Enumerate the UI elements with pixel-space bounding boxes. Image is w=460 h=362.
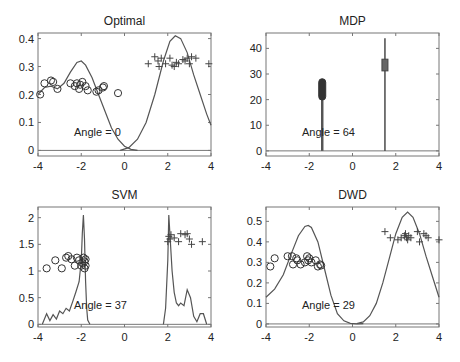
class-1-point <box>52 257 59 264</box>
y-tick-label: 0.5 <box>247 215 262 227</box>
class-2-point <box>199 238 206 245</box>
subplot-svm: SVM-4-202400.511.52Angle = 37 <box>19 188 214 343</box>
angle-annotation: Angle = 37 <box>74 299 127 311</box>
class-2-point <box>175 238 182 245</box>
class-1-point <box>84 87 91 94</box>
subplot-title: MDP <box>339 14 366 28</box>
density-curve <box>120 36 211 151</box>
y-tick-label: 40 <box>250 42 262 54</box>
class-1-point <box>114 90 121 97</box>
x-tick-label: -4 <box>261 160 271 172</box>
y-tick-label: 0 <box>256 145 262 157</box>
class-1-points <box>319 79 326 100</box>
x-tick-label: -2 <box>304 160 314 172</box>
class-2-point <box>192 55 199 62</box>
x-tick-label: -2 <box>76 331 86 343</box>
y-tick-label: 0.1 <box>247 297 262 309</box>
y-tick-label: 0.4 <box>19 33 34 45</box>
y-tick-label: 0.4 <box>247 236 262 248</box>
subplot-optimal: Optimal-4-202400.10.20.30.4Angle = 0 <box>19 14 214 172</box>
class-1-point <box>50 78 57 85</box>
y-tick-label: 0.2 <box>19 89 34 101</box>
class-2-point <box>166 55 173 62</box>
y-tick-label: 0.3 <box>247 256 262 268</box>
x-tick-label: -4 <box>33 160 43 172</box>
class-1-point <box>271 255 278 262</box>
y-tick-label: 1.5 <box>19 238 34 250</box>
y-tick-label: 0.3 <box>19 61 34 73</box>
x-tick-label: 2 <box>165 160 171 172</box>
x-tick-label: 4 <box>436 160 442 172</box>
subplot-title: DWD <box>338 188 367 202</box>
subplot-dwd: DWD-4-202400.10.20.30.40.5Angle = 29 <box>247 188 443 343</box>
subplot-title: SVM <box>111 188 137 202</box>
x-tick-label: -2 <box>76 160 86 172</box>
y-tick-label: 0 <box>28 144 34 156</box>
x-tick-label: 0 <box>349 160 355 172</box>
class-2-points <box>382 59 388 71</box>
class-1-point <box>267 263 274 270</box>
y-tick-label: 0 <box>256 318 262 330</box>
class-2-point <box>177 230 184 237</box>
class-2-point <box>387 234 394 241</box>
y-tick-label: 0.1 <box>19 116 34 128</box>
x-tick-label: 0 <box>349 331 355 343</box>
class-1-point <box>43 265 50 272</box>
y-tick-label: 2 <box>28 212 34 224</box>
class-2-point <box>145 60 152 67</box>
x-tick-label: 2 <box>393 160 399 172</box>
x-tick-label: 0 <box>121 160 127 172</box>
y-tick-label: 0 <box>28 318 34 330</box>
y-tick-label: 1 <box>28 265 34 277</box>
angle-annotation: Angle = 0 <box>74 126 121 138</box>
class-2-point <box>171 234 178 241</box>
x-tick-label: 2 <box>393 331 399 343</box>
axes-frame <box>38 33 211 156</box>
subplot-mdp: MDP-4-2024010203040Angle = 64 <box>250 14 442 172</box>
x-tick-label: -2 <box>304 331 314 343</box>
class-2-point <box>381 228 388 235</box>
y-tick-label: 30 <box>250 68 262 80</box>
class-2-point <box>151 53 158 60</box>
x-tick-label: 4 <box>436 331 442 343</box>
y-tick-label: 0.2 <box>247 277 262 289</box>
y-tick-label: 10 <box>250 119 262 131</box>
density-curve <box>357 212 439 323</box>
figure-canvas: Optimal-4-202400.10.20.30.4Angle = 0MDP-… <box>0 0 460 362</box>
angle-annotation: Angle = 29 <box>302 299 355 311</box>
y-tick-label: 20 <box>250 94 262 106</box>
x-tick-label: 4 <box>208 160 214 172</box>
y-tick-label: 0.5 <box>19 292 34 304</box>
x-tick-label: -4 <box>261 331 271 343</box>
x-tick-label: 4 <box>208 331 214 343</box>
class-1-point <box>58 265 65 272</box>
x-tick-label: 0 <box>121 331 127 343</box>
x-tick-label: 2 <box>165 331 171 343</box>
angle-annotation: Angle = 64 <box>302 126 355 138</box>
subplot-title: Optimal <box>104 14 145 28</box>
x-tick-label: -4 <box>33 331 43 343</box>
